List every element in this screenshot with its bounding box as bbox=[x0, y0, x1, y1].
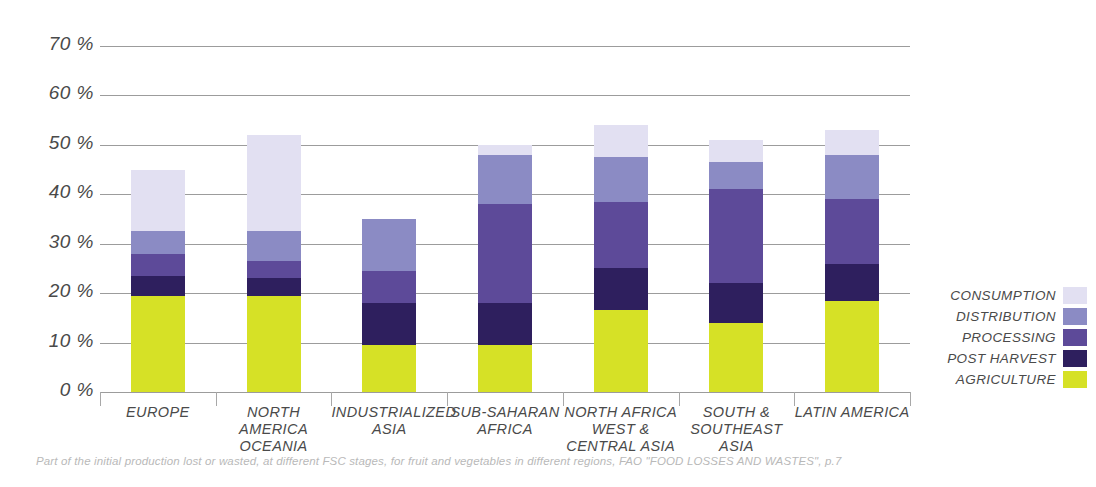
gridline bbox=[100, 95, 910, 96]
bar-segment bbox=[247, 135, 301, 231]
y-axis-tick-label: 40 % bbox=[49, 181, 94, 203]
bar-segment bbox=[478, 204, 532, 303]
bar-segment bbox=[594, 268, 648, 310]
legend-label: CONSUMPTION bbox=[950, 288, 1056, 303]
bar-segment bbox=[247, 231, 301, 261]
x-axis-category-label: EUROPE bbox=[100, 404, 216, 421]
bar-segment bbox=[478, 345, 532, 392]
bar-segment bbox=[825, 199, 879, 263]
bar-stack bbox=[709, 140, 763, 392]
bar-segment bbox=[247, 278, 301, 295]
legend-label: POST HARVEST bbox=[947, 351, 1056, 366]
bar-stack bbox=[247, 135, 301, 392]
chart-caption: Part of the initial production lost or w… bbox=[36, 455, 1066, 467]
legend-item: DISTRIBUTION bbox=[912, 307, 1087, 326]
legend: CONSUMPTIONDISTRIBUTIONPROCESSINGPOST HA… bbox=[912, 286, 1087, 391]
legend-item: PROCESSING bbox=[912, 328, 1087, 347]
x-axis-tick bbox=[910, 392, 911, 406]
x-axis-category-label: NORTH AMERICA OCEANIA bbox=[216, 404, 332, 455]
bar-segment bbox=[709, 162, 763, 189]
bar-segment bbox=[478, 155, 532, 204]
legend-item: AGRICULTURE bbox=[912, 370, 1087, 389]
bar-segment bbox=[131, 276, 185, 296]
legend-item: POST HARVEST bbox=[912, 349, 1087, 368]
bar-segment bbox=[362, 303, 416, 345]
bar-segment bbox=[709, 323, 763, 392]
legend-label: AGRICULTURE bbox=[956, 372, 1056, 387]
bar-stack bbox=[362, 219, 416, 392]
bar-stack bbox=[131, 170, 185, 392]
x-axis-category-label: SOUTH & SOUTHEAST ASIA bbox=[679, 404, 795, 455]
bar-segment bbox=[825, 130, 879, 155]
bar-segment bbox=[594, 310, 648, 392]
stacked-bar-chart: 70 %60 %50 %40 %30 %20 %10 %0 % EUROPENO… bbox=[0, 0, 1096, 487]
legend-swatch bbox=[1063, 308, 1087, 325]
bar-segment bbox=[362, 271, 416, 303]
legend-swatch bbox=[1063, 350, 1087, 367]
bar-segment bbox=[825, 155, 879, 199]
legend-swatch bbox=[1063, 287, 1087, 304]
y-axis-tick-label: 50 % bbox=[49, 132, 94, 154]
y-axis-tick-label: 20 % bbox=[49, 280, 94, 302]
y-axis-tick-label: 10 % bbox=[49, 330, 94, 352]
bar-segment bbox=[709, 140, 763, 162]
bar-segment bbox=[247, 296, 301, 392]
legend-label: DISTRIBUTION bbox=[956, 309, 1056, 324]
bar-stack bbox=[825, 130, 879, 392]
bar-segment bbox=[594, 157, 648, 201]
bar-segment bbox=[247, 261, 301, 278]
bar-segment bbox=[131, 296, 185, 392]
x-axis-line bbox=[100, 392, 910, 393]
bar-segment bbox=[594, 202, 648, 269]
legend-swatch bbox=[1063, 371, 1087, 388]
bar-segment bbox=[131, 170, 185, 232]
bar-segment bbox=[478, 303, 532, 345]
bar-stack bbox=[478, 145, 532, 392]
bar-segment bbox=[131, 231, 185, 253]
x-axis-category-label: NORTH AFRICA WEST & CENTRAL ASIA bbox=[563, 404, 679, 455]
bar-segment bbox=[825, 301, 879, 392]
bar-segment bbox=[709, 189, 763, 283]
bar-segment bbox=[478, 145, 532, 155]
plot-area bbox=[100, 46, 910, 392]
x-axis-category-label: SUB-SAHARAN AFRICA bbox=[447, 404, 563, 438]
legend-label: PROCESSING bbox=[962, 330, 1056, 345]
bar-segment bbox=[362, 345, 416, 392]
y-axis-tick-label: 30 % bbox=[49, 231, 94, 253]
bar-segment bbox=[825, 264, 879, 301]
bar-segment bbox=[131, 254, 185, 276]
bar-segment bbox=[594, 125, 648, 157]
x-axis-category-label: LATIN AMERICA bbox=[794, 404, 910, 421]
bar-stack bbox=[594, 125, 648, 392]
bar-segment bbox=[709, 283, 763, 323]
legend-swatch bbox=[1063, 329, 1087, 346]
legend-item: CONSUMPTION bbox=[912, 286, 1087, 305]
x-axis-category-label: INDUSTRIALIZED ASIA bbox=[331, 404, 447, 438]
y-axis-tick-label: 60 % bbox=[49, 82, 94, 104]
gridline bbox=[100, 46, 910, 47]
y-axis-tick-label: 70 % bbox=[49, 33, 94, 55]
bar-segment bbox=[362, 219, 416, 271]
y-axis-tick-label: 0 % bbox=[60, 379, 94, 401]
